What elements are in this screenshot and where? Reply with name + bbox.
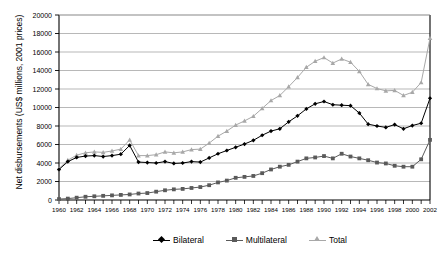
data-point-marker	[349, 155, 353, 159]
data-point-marker	[216, 134, 221, 138]
data-point-marker	[304, 156, 308, 160]
data-point-marker	[119, 193, 123, 197]
data-point-marker	[216, 152, 220, 156]
data-point-marker	[331, 156, 335, 160]
data-point-marker	[260, 133, 264, 137]
legend-label-bilateral: Bilateral	[173, 235, 204, 245]
data-point-marker	[296, 160, 300, 164]
x-axis-tick-label: 1994	[352, 206, 366, 213]
data-point-marker	[410, 123, 414, 127]
legend-item-total: Total	[309, 235, 347, 245]
data-point-marker	[154, 161, 158, 165]
x-axis-tick-label: 1990	[317, 206, 331, 213]
series-line	[59, 38, 430, 168]
x-axis-tick-label: 1964	[87, 206, 101, 213]
data-point-marker	[340, 103, 344, 107]
data-point-marker	[145, 191, 149, 195]
x-axis-tick-label: 1980	[229, 206, 243, 213]
data-point-marker	[419, 80, 424, 84]
data-point-marker	[92, 154, 96, 158]
data-point-marker	[251, 138, 255, 142]
series-total	[57, 36, 433, 171]
data-point-marker	[393, 164, 397, 168]
x-axis-tick-label: 1984	[264, 206, 278, 213]
data-point-marker	[269, 129, 273, 133]
x-axis-tick-label: 1962	[70, 206, 84, 213]
x-axis-tick-label: 2002	[423, 206, 437, 213]
x-axis-tick-label: 1972	[158, 206, 172, 213]
data-point-marker	[198, 160, 202, 164]
x-axis-tick-label: 1976	[193, 206, 207, 213]
y-axis-tick-label: 16000	[33, 49, 53, 56]
data-point-marker	[251, 174, 255, 178]
series-line	[59, 140, 430, 199]
data-point-marker	[260, 171, 264, 175]
data-point-marker	[375, 124, 379, 128]
square-marker-icon	[226, 236, 243, 245]
data-point-marker	[128, 193, 132, 197]
y-axis-tick-label: 12000	[33, 86, 53, 93]
data-point-marker	[402, 165, 406, 169]
x-axis-tick-label: 1988	[299, 206, 313, 213]
y-axis-tick-label: 2000	[36, 178, 52, 185]
data-point-marker	[340, 152, 344, 156]
data-point-marker	[269, 98, 274, 102]
data-point-marker	[242, 142, 246, 146]
data-point-marker	[322, 55, 327, 59]
y-axis-tick-label: 6000	[36, 141, 52, 148]
data-point-marker	[234, 176, 238, 180]
data-point-marker	[57, 197, 61, 201]
x-axis-tick-label: 1960	[52, 206, 66, 213]
data-point-marker	[322, 154, 326, 158]
data-point-marker	[172, 161, 176, 165]
data-point-marker	[428, 138, 432, 142]
legend-label-total: Total	[329, 235, 347, 245]
chart-legend: Bilateral Multilateral Total	[130, 232, 370, 248]
series-line	[59, 98, 430, 169]
data-point-marker	[225, 148, 229, 152]
y-axis-tick-label: 8000	[36, 123, 52, 130]
x-axis-tick-label: 1996	[370, 206, 384, 213]
data-point-marker	[278, 165, 282, 169]
data-point-marker	[410, 165, 414, 169]
x-axis-tick-label: 1982	[246, 206, 260, 213]
data-point-marker	[313, 156, 317, 160]
legend-label-multilateral: Multilateral	[246, 235, 287, 245]
data-point-marker	[331, 103, 335, 107]
y-axis-tick-label: 10000	[33, 104, 53, 111]
y-axis-tick-label: 20000	[33, 12, 53, 19]
chart-svg: 0200040006000800010000120001400016000180…	[0, 0, 441, 258]
data-point-marker	[366, 158, 370, 162]
data-point-marker	[313, 102, 317, 106]
x-axis-tick-label: 1970	[140, 206, 154, 213]
data-point-marker	[101, 154, 105, 158]
x-axis-tick-label: 1986	[282, 206, 296, 213]
data-point-marker	[154, 190, 158, 194]
data-point-marker	[357, 156, 361, 160]
x-axis-tick-label: 1978	[211, 206, 225, 213]
data-point-marker	[428, 36, 433, 40]
data-point-marker	[339, 57, 344, 61]
data-point-marker	[207, 183, 211, 187]
x-axis-tick-label: 1968	[123, 206, 137, 213]
data-point-marker	[401, 127, 405, 131]
data-point-marker	[92, 194, 96, 198]
data-point-marker	[110, 193, 114, 197]
data-point-marker	[181, 187, 185, 191]
data-point-marker	[225, 129, 230, 133]
data-point-marker	[66, 197, 70, 201]
data-point-marker	[419, 157, 423, 161]
x-axis-tick-label: 1974	[176, 206, 190, 213]
data-point-marker	[287, 163, 291, 167]
data-point-marker	[110, 154, 114, 158]
legend-item-multilateral: Multilateral	[226, 235, 287, 245]
data-point-marker	[75, 196, 79, 200]
data-point-marker	[428, 96, 432, 100]
data-point-marker	[243, 175, 247, 179]
y-axis-tick-label: 0	[48, 197, 52, 204]
data-point-marker	[101, 194, 105, 198]
data-point-marker	[136, 160, 140, 164]
data-point-marker	[207, 156, 211, 160]
data-point-marker	[145, 160, 149, 164]
x-axis-tick-label: 1966	[105, 206, 119, 213]
